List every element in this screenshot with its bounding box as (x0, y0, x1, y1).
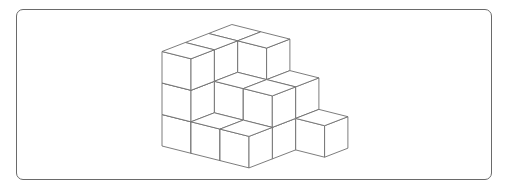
cube-layer (162, 25, 348, 168)
cube-stack-figure (0, 0, 505, 194)
